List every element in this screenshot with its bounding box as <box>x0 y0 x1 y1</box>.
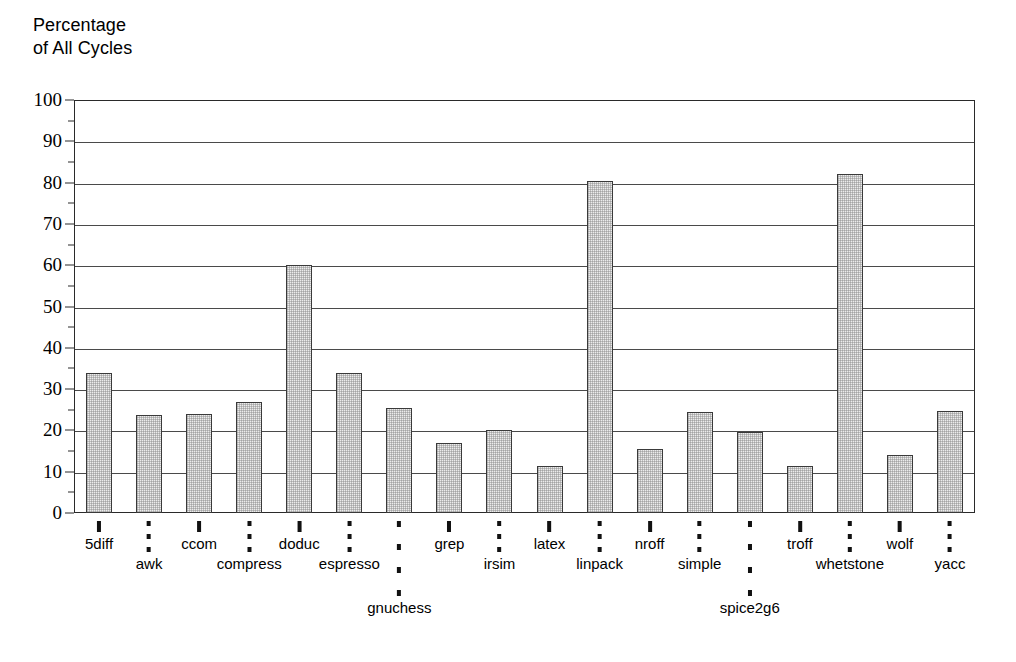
x-axis-label: troff <box>787 535 813 552</box>
y-axis-label: 80 <box>43 172 62 194</box>
x-axis-tick-group: nroff <box>635 513 665 552</box>
y-tick-20 <box>65 430 74 431</box>
x-axis-leader <box>447 513 451 532</box>
y-axis-label: 10 <box>43 461 62 483</box>
x-axis-label: 5diff <box>85 535 113 552</box>
x-axis-leader <box>698 513 702 552</box>
x-axis-label: latex <box>534 535 566 552</box>
bar-yacc <box>937 411 963 513</box>
y-axis-label: 30 <box>43 378 62 400</box>
x-axis-leader <box>97 513 101 532</box>
x-axis-tick-group: ccom <box>181 513 217 552</box>
bar-spice2g6 <box>737 432 763 513</box>
bar-linpack <box>587 181 613 513</box>
x-axis-tick-group: gnuchess <box>367 513 431 616</box>
x-axis-leader <box>648 513 652 532</box>
bar-simple <box>687 412 713 513</box>
x-axis-label: whetstone <box>816 555 884 572</box>
y-tick-0 <box>65 513 74 514</box>
x-axis-leader <box>598 513 602 552</box>
x-axis-leader <box>297 513 301 532</box>
x-axis-leader <box>548 513 552 532</box>
y-tick-30 <box>65 389 74 390</box>
x-axis-tick-group: spice2g6 <box>720 513 780 616</box>
y-tick-90 <box>65 141 74 142</box>
y-axis-label: 60 <box>43 254 62 276</box>
bar-espresso <box>336 373 362 513</box>
x-axis-leader <box>397 513 401 596</box>
x-axis-tick-group: simple <box>678 513 721 572</box>
y-tick-80 <box>65 182 74 183</box>
y-axis-label: 0 <box>53 502 63 524</box>
x-axis-leader <box>898 513 902 532</box>
x-axis-label: awk <box>136 555 163 572</box>
x-axis-tick-group: 5diff <box>85 513 113 552</box>
x-axis-tick-group: grep <box>434 513 464 552</box>
y-tick-10 <box>65 471 74 472</box>
x-axis-tick-group: yacc <box>935 513 966 572</box>
y-axis-label: 20 <box>43 419 62 441</box>
x-axis-leader <box>147 513 151 552</box>
y-tick-60 <box>65 265 74 266</box>
x-axis-label: grep <box>434 535 464 552</box>
bar-awk <box>136 415 162 513</box>
x-axis-label: nroff <box>635 535 665 552</box>
y-tick-40 <box>65 347 74 348</box>
x-axis-leader <box>798 513 802 532</box>
x-axis-leader <box>748 513 752 596</box>
bar-5diff <box>86 373 112 513</box>
x-axis-tick-group: wolf <box>887 513 914 552</box>
y-axis: 0102030405060708090100 <box>0 100 74 513</box>
x-axis-label: irsim <box>484 555 516 572</box>
x-axis-leader <box>197 513 201 532</box>
x-axis-tick-group: troff <box>787 513 813 552</box>
x-axis-tick-group: doduc <box>279 513 320 552</box>
x-axis-tick-group: latex <box>534 513 566 552</box>
x-axis-tick-group: awk <box>136 513 163 572</box>
bar-irsim <box>486 430 512 513</box>
x-axis-label: linpack <box>576 555 623 572</box>
y-tick-50 <box>65 306 74 307</box>
bar-grep <box>436 443 462 513</box>
chart-title: Percentage of All Cycles <box>33 14 132 60</box>
x-axis-label: spice2g6 <box>720 599 780 616</box>
y-tick-100 <box>65 100 74 101</box>
bar-whetstone <box>837 174 863 513</box>
x-axis-leader <box>347 513 351 552</box>
x-axis-label: ccom <box>181 535 217 552</box>
x-axis-leader <box>247 513 251 552</box>
x-axis-leader <box>497 513 501 552</box>
y-axis-label: 50 <box>43 296 62 318</box>
bar-gnuchess <box>386 408 412 513</box>
y-tick-70 <box>65 223 74 224</box>
gridline-90 <box>75 142 974 143</box>
x-axis-leader <box>948 513 952 552</box>
bar-latex <box>537 466 563 513</box>
x-axis-tick-group: linpack <box>576 513 623 572</box>
x-axis-tick-group: whetstone <box>816 513 884 572</box>
y-axis-label: 100 <box>34 89 63 111</box>
y-axis-label: 90 <box>43 130 62 152</box>
x-axis-leader <box>848 513 852 552</box>
x-axis-label: wolf <box>887 535 914 552</box>
x-axis: 5diffawkccomcompressdoducespressognuches… <box>74 513 975 658</box>
bar-doduc <box>286 265 312 513</box>
y-axis-label: 40 <box>43 337 62 359</box>
bar-wolf <box>887 455 913 513</box>
x-axis-label: doduc <box>279 535 320 552</box>
x-axis-label: yacc <box>935 555 966 572</box>
x-axis-label: simple <box>678 555 721 572</box>
bar-troff <box>787 466 813 513</box>
bar-nroff <box>637 449 663 513</box>
x-axis-label: gnuchess <box>367 599 431 616</box>
y-axis-label: 70 <box>43 213 62 235</box>
bar-compress <box>236 402 262 514</box>
bar-ccom <box>186 414 212 513</box>
x-axis-tick-group: compress <box>217 513 282 572</box>
x-axis-label: compress <box>217 555 282 572</box>
x-axis-tick-group: irsim <box>484 513 516 572</box>
